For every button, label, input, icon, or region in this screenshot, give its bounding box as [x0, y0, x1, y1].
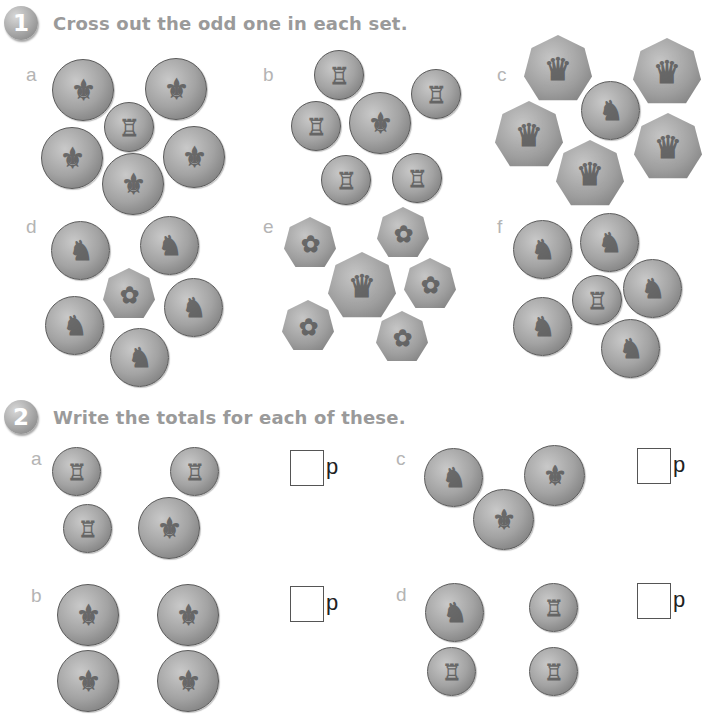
- coin-10p[interactable]: ♞: [45, 296, 104, 355]
- coin-1p-emblem-icon: ♖: [78, 516, 98, 542]
- coin-10p-emblem-icon: ♞: [531, 311, 555, 342]
- coin-1p[interactable]: ♖: [572, 275, 622, 325]
- set-label-c: c: [497, 64, 507, 86]
- coin-10p: ♞: [424, 448, 483, 507]
- coin-1p[interactable]: ♖: [392, 153, 442, 203]
- coin-1p: ♖: [529, 583, 578, 632]
- answer-box-a[interactable]: [290, 450, 324, 486]
- coin-20p[interactable]: ✿: [376, 311, 428, 363]
- coin-1p: ♖: [170, 447, 219, 496]
- coin-2p-emblem-icon: ⚜: [182, 141, 207, 174]
- coin-50p-emblem-icon: ♛: [544, 51, 572, 87]
- coin-1p: ♖: [529, 647, 578, 696]
- coin-2p: ⚜: [524, 445, 585, 506]
- coin-1p[interactable]: ♖: [321, 155, 371, 205]
- coin-20p-emblem-icon: ✿: [299, 313, 318, 340]
- problem-label-a: a: [31, 448, 42, 470]
- coin-10p-emblem-icon: ♞: [641, 273, 665, 304]
- coin-50p[interactable]: ♛: [328, 252, 396, 320]
- coin-20p-emblem-icon: ✿: [393, 324, 412, 351]
- coin-10p-emblem-icon: ♞: [442, 462, 466, 493]
- question-number-badge: 2: [4, 400, 38, 434]
- coin-50p-emblem-icon: ♛: [515, 117, 543, 153]
- coin-2p-emblem-icon: ⚜: [121, 168, 146, 201]
- coin-20p[interactable]: ✿: [284, 217, 336, 269]
- coin-2p-emblem-icon: ⚜: [71, 74, 96, 107]
- coin-10p-emblem-icon: ♞: [69, 235, 93, 266]
- coin-50p-emblem-icon: ♛: [348, 268, 376, 304]
- coin-2p: ⚜: [138, 497, 200, 559]
- coin-10p[interactable]: ♞: [581, 81, 640, 140]
- coin-10p[interactable]: ♞: [164, 278, 223, 337]
- coin-10p-emblem-icon: ♞: [63, 310, 87, 341]
- coin-1p[interactable]: ♖: [291, 101, 341, 151]
- coin-50p-emblem-icon: ♛: [653, 54, 681, 90]
- question-instruction: Cross out the odd one in each set.: [53, 13, 408, 34]
- coin-2p[interactable]: ⚜: [163, 126, 225, 188]
- coin-10p-emblem-icon: ♞: [599, 95, 623, 126]
- unit-pence-label: p: [673, 452, 685, 478]
- set-label-a: a: [26, 64, 37, 86]
- coin-10p[interactable]: ♞: [51, 221, 110, 280]
- coin-2p: ⚜: [157, 584, 219, 646]
- coin-2p-emblem-icon: ⚜: [543, 460, 567, 491]
- coin-20p-emblem-icon: ✿: [301, 230, 320, 257]
- coin-10p[interactable]: ♞: [140, 216, 199, 275]
- coin-1p[interactable]: ♖: [411, 69, 461, 119]
- answer-box-d[interactable]: [637, 583, 671, 619]
- set-label-b: b: [263, 64, 274, 86]
- coin-10p[interactable]: ♞: [110, 328, 169, 387]
- question-number-badge: 1: [4, 6, 38, 40]
- question-2-header: 2 Write the totals for each of these.: [4, 400, 406, 434]
- coin-2p-emblem-icon: ⚜: [76, 665, 101, 698]
- coin-10p[interactable]: ♞: [580, 213, 639, 272]
- coin-10p[interactable]: ♞: [623, 259, 682, 318]
- coin-50p[interactable]: ♛: [633, 38, 701, 106]
- set-label-d: d: [26, 216, 37, 238]
- coin-2p[interactable]: ⚜: [41, 127, 103, 189]
- set-label-e: e: [263, 216, 274, 238]
- coin-2p-emblem-icon: ⚜: [60, 142, 85, 175]
- coin-1p[interactable]: ♖: [314, 50, 364, 100]
- coin-50p[interactable]: ♛: [495, 101, 563, 169]
- coin-10p-emblem-icon: ♞: [598, 227, 622, 258]
- coin-20p-emblem-icon: ✿: [421, 271, 440, 298]
- set-label-f: f: [497, 216, 502, 238]
- coin-10p[interactable]: ♞: [513, 297, 572, 356]
- unit-pence-label: p: [326, 454, 338, 480]
- coin-20p[interactable]: ✿: [404, 258, 456, 310]
- coin-1p-emblem-icon: ♖: [185, 459, 205, 485]
- coin-2p: ⚜: [57, 584, 119, 646]
- unit-pence-label: p: [673, 587, 685, 613]
- question-1-header: 1 Cross out the odd one in each set.: [4, 6, 408, 40]
- coin-10p[interactable]: ♞: [601, 319, 660, 378]
- coin-50p-emblem-icon: ♛: [654, 129, 682, 165]
- coin-2p[interactable]: ⚜: [145, 58, 207, 120]
- answer-box-c[interactable]: [637, 448, 671, 484]
- coin-1p[interactable]: ♖: [104, 102, 154, 152]
- coin-50p[interactable]: ♛: [634, 113, 702, 181]
- coin-2p-emblem-icon: ⚜: [157, 512, 182, 545]
- coin-2p[interactable]: ⚜: [52, 59, 114, 121]
- coin-1p: ♖: [63, 504, 112, 553]
- coin-2p[interactable]: ⚜: [102, 153, 164, 215]
- coin-20p-emblem-icon: ✿: [394, 220, 413, 247]
- coin-1p-emblem-icon: ♖: [426, 81, 447, 108]
- coin-20p[interactable]: ✿: [282, 300, 334, 352]
- answer-box-b[interactable]: [290, 586, 324, 622]
- coin-10p[interactable]: ♞: [513, 220, 572, 279]
- coin-10p-emblem-icon: ♞: [619, 333, 643, 364]
- problem-label-c: c: [396, 448, 406, 470]
- coin-2p: ⚜: [57, 650, 119, 712]
- coin-50p[interactable]: ♛: [556, 140, 624, 208]
- coin-50p[interactable]: ♛: [524, 35, 592, 103]
- coin-10p-emblem-icon: ♞: [158, 230, 182, 261]
- coin-2p-emblem-icon: ⚜: [164, 73, 189, 106]
- coin-2p[interactable]: ⚜: [349, 92, 411, 154]
- coin-1p-emblem-icon: ♖: [67, 459, 87, 485]
- coin-1p-emblem-icon: ♖: [306, 113, 327, 140]
- coin-20p[interactable]: ✿: [377, 207, 429, 259]
- coin-2p: ⚜: [473, 489, 534, 550]
- coin-20p[interactable]: ✿: [103, 268, 155, 320]
- coin-1p-emblem-icon: ♖: [587, 287, 608, 314]
